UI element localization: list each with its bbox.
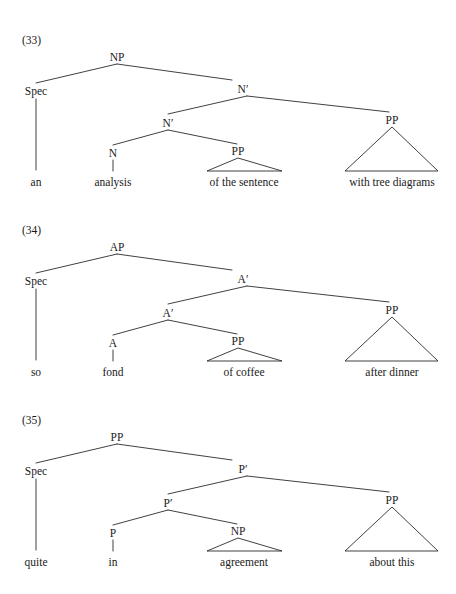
- syntax-tree-2: (34) AP Spec A′ A′ A PP PP so fond of co…: [0, 190, 456, 380]
- adjunct-triangle: [345, 317, 438, 361]
- head-node-label: A: [109, 337, 118, 349]
- head-word-label: analysis: [94, 176, 132, 189]
- branch-bar-upper-to-adjunct: [247, 476, 389, 492]
- branch-root-to-bar-upper: [117, 64, 232, 80]
- spec-node-label: Spec: [25, 85, 47, 98]
- spec-word-label: quite: [25, 556, 48, 569]
- branch-bar-lower-to-complement: [168, 510, 237, 524]
- adjunct-words-label: about this: [369, 556, 415, 568]
- example-number: (33): [22, 34, 41, 47]
- syntax-tree-1: (33) NP Spec N′ N′ N PP PP an analysis o…: [0, 0, 456, 190]
- bar-upper-node-label: A′: [238, 273, 249, 285]
- root-node-label: AP: [110, 241, 125, 253]
- complement-words-label: agreement: [220, 556, 269, 569]
- branch-bar-upper-to-bar-lower: [168, 96, 247, 114]
- head-word-label: fond: [102, 366, 123, 378]
- adjunct-node-label: PP: [386, 304, 399, 316]
- syntax-tree-3: (35) PP Spec P′ P′ P NP PP quite in agre…: [0, 380, 456, 570]
- bar-lower-node-label: A′: [163, 307, 174, 319]
- complement-words-label: of the sentence: [210, 176, 279, 188]
- branch-root-to-spec: [36, 444, 117, 463]
- adjunct-words-label: with tree diagrams: [349, 176, 435, 189]
- example-number: (34): [22, 224, 41, 237]
- spec-word-label: an: [31, 176, 42, 188]
- bar-upper-node-label: P′: [239, 463, 248, 475]
- complement-triangle: [207, 348, 282, 361]
- root-node-label: PP: [111, 431, 124, 443]
- branch-bar-upper-to-adjunct: [247, 96, 389, 112]
- branch-bar-lower-to-head: [113, 130, 168, 145]
- complement-node-label: PP: [232, 335, 245, 347]
- head-node-label: P: [110, 527, 116, 539]
- branch-bar-lower-to-complement: [168, 320, 237, 334]
- branch-bar-lower-to-head: [113, 320, 168, 335]
- syntax-tree-sheet: (33) NP Spec N′ N′ N PP PP an analysis o…: [0, 0, 456, 594]
- adjunct-triangle: [345, 507, 438, 551]
- head-node-label: N: [109, 147, 118, 159]
- bar-lower-node-label: P′: [164, 497, 173, 509]
- root-node-label: NP: [110, 51, 125, 63]
- bar-lower-node-label: N′: [163, 117, 174, 129]
- complement-triangle: [207, 538, 282, 551]
- branch-bar-lower-to-head: [113, 510, 168, 525]
- complement-node-label: PP: [232, 145, 245, 157]
- branch-root-to-bar-upper: [117, 254, 232, 270]
- complement-triangle: [207, 158, 282, 171]
- adjunct-node-label: PP: [386, 114, 399, 126]
- bar-upper-node-label: N′: [238, 83, 249, 95]
- example-number: (35): [22, 414, 41, 427]
- branch-bar-upper-to-bar-lower: [168, 476, 247, 494]
- spec-word-label: so: [31, 366, 41, 378]
- spec-node-label: Spec: [25, 275, 47, 288]
- branch-bar-upper-to-bar-lower: [168, 286, 247, 304]
- branch-root-to-bar-upper: [117, 444, 232, 460]
- adjunct-node-label: PP: [386, 494, 399, 506]
- adjunct-words-label: after dinner: [365, 366, 418, 378]
- branch-root-to-spec: [36, 254, 117, 273]
- complement-node-label: NP: [231, 525, 246, 537]
- complement-words-label: of coffee: [224, 366, 265, 378]
- adjunct-triangle: [345, 127, 438, 171]
- branch-root-to-spec: [36, 64, 117, 83]
- spec-node-label: Spec: [25, 465, 47, 478]
- branch-bar-lower-to-complement: [168, 130, 237, 144]
- head-word-label: in: [109, 556, 118, 568]
- branch-bar-upper-to-adjunct: [247, 286, 389, 302]
